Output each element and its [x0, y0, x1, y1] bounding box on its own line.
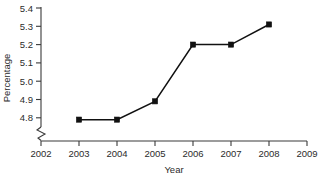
- data-point-marker: [266, 22, 271, 27]
- data-point-marker: [114, 117, 119, 122]
- line-chart: Percentage 5.4 5.3 5.2 5.1 5.0 4.9 4.8: [0, 0, 323, 178]
- data-point-marker: [76, 117, 81, 122]
- x-tick-label-2002: 2002: [30, 148, 51, 159]
- x-tick-label-2006: 2006: [182, 148, 203, 159]
- chart-canvas: Percentage 5.4 5.3 5.2 5.1 5.0 4.9 4.8: [0, 0, 323, 178]
- x-axis-title: Year: [164, 164, 183, 175]
- y-tick-label-5-0: 5.0: [20, 76, 33, 87]
- x-tick-label-2003: 2003: [68, 148, 89, 159]
- x-tick-label-2009: 2009: [296, 148, 317, 159]
- x-tick-label-2005: 2005: [144, 148, 165, 159]
- x-tick-label-2004: 2004: [106, 148, 127, 159]
- data-point-marker: [190, 42, 195, 47]
- y-axis-break-icon: [37, 127, 45, 141]
- y-tick-label-4-8: 4.8: [20, 112, 33, 123]
- y-tick-label-5-4: 5.4: [20, 3, 33, 14]
- series-percentage: [76, 22, 271, 122]
- y-tick-label-4-9: 4.9: [20, 94, 33, 105]
- x-tick-label-2007: 2007: [220, 148, 241, 159]
- x-tick-label-2008: 2008: [258, 148, 279, 159]
- data-point-marker: [152, 99, 157, 104]
- data-point-marker: [228, 42, 233, 47]
- series-line: [79, 24, 269, 119]
- y-tick-label-5-2: 5.2: [20, 39, 33, 50]
- y-tick-label-5-1: 5.1: [20, 57, 33, 68]
- y-axis-title: Percentage: [1, 54, 12, 103]
- y-tick-label-5-3: 5.3: [20, 21, 33, 32]
